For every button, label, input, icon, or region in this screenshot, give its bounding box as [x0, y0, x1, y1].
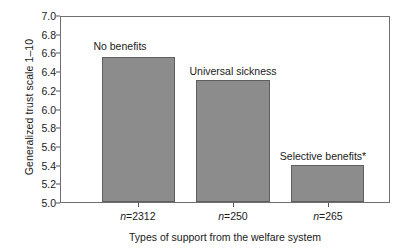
x-axis-tick-mark [233, 203, 234, 207]
y-axis-tick-label: 5.0 [26, 198, 56, 209]
bar [291, 165, 364, 202]
x-axis-tick-label: n=2312 [120, 210, 155, 222]
y-axis-tick-label: 5.2 [26, 179, 56, 190]
y-axis-tick-label: 5.6 [26, 141, 56, 152]
y-axis-tick-label: 6.8 [26, 29, 56, 40]
bar-category-label: Universal sickness [190, 65, 277, 77]
bar [196, 80, 269, 202]
bar-chart-figure: Generalized trust scale 1–10 7.06.86.66.… [0, 0, 418, 252]
y-axis-tick-label: 6.4 [26, 67, 56, 78]
y-axis-tick-labels: 7.06.86.66.46.26.05.85.65.45.25.0 [26, 10, 56, 209]
x-axis-tick-labels: n=2312n=250n=265 [60, 203, 390, 209]
bar [102, 57, 175, 202]
y-axis-tick-label: 6.0 [26, 104, 56, 115]
y-axis-tick-label: 6.2 [26, 85, 56, 96]
x-axis-tick-mark [138, 203, 139, 207]
y-axis-tick-label: 6.6 [26, 48, 56, 59]
bar-category-label: Selective benefits* [280, 150, 366, 162]
y-axis-tick-label: 5.8 [26, 123, 56, 134]
y-axis-tick-label: 7.0 [26, 11, 56, 22]
x-axis-tick-label: n=250 [218, 210, 248, 222]
x-axis-tick-mark [328, 203, 329, 207]
x-axis-title: Types of support from the welfare system [60, 231, 390, 243]
y-axis-tick-label: 5.4 [26, 160, 56, 171]
x-axis-tick-label: n=265 [313, 210, 343, 222]
bar-category-label: No benefits [93, 40, 146, 52]
